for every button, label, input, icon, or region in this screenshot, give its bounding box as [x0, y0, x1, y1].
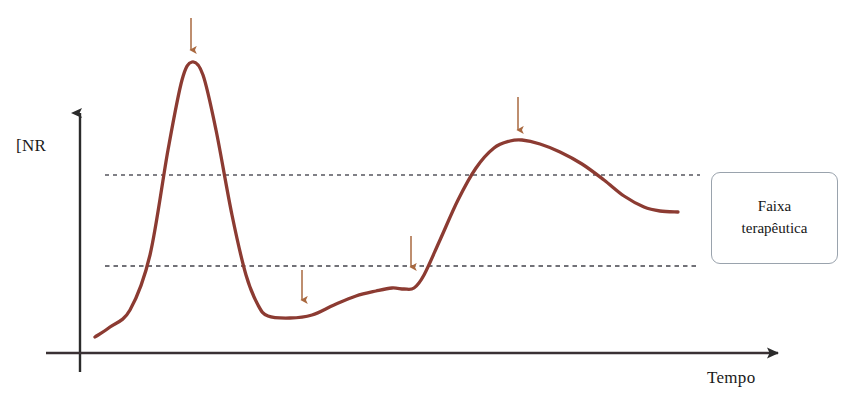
y-axis-label: [NR — [16, 136, 46, 156]
x-axis-label: Tempo — [707, 368, 755, 388]
legend-line-1: Faixa — [758, 196, 791, 218]
inr-curve-group — [95, 62, 678, 337]
inr-time-chart: [NR Tempo Faixa terapêutica — [0, 0, 855, 416]
inr-curve — [95, 62, 678, 337]
therapeutic-range-lines — [105, 175, 700, 266]
legend-line-2: terapêutica — [742, 218, 808, 240]
therapeutic-range-legend-box: Faixa terapêutica — [711, 172, 838, 264]
axes-group — [46, 113, 778, 372]
